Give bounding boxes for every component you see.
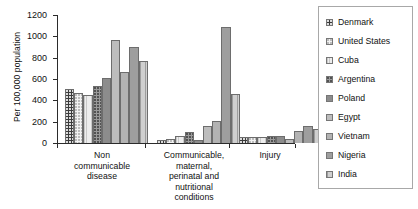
bar — [83, 95, 92, 143]
bar — [139, 61, 148, 143]
plot-area: 020040060080010001200 — [57, 15, 295, 144]
bar — [221, 27, 230, 143]
y-axis-tick-label: 0 — [42, 139, 47, 148]
category-label-line: disease — [57, 171, 147, 182]
bar — [276, 136, 285, 143]
bar — [120, 72, 129, 143]
bar — [185, 132, 194, 143]
x-axis-tick — [295, 144, 296, 148]
bar — [74, 93, 83, 143]
category-label-line: Injury — [242, 150, 298, 161]
bar — [157, 140, 166, 143]
legend-item-label: Cuba — [338, 56, 359, 65]
legend-item-label: Vietnam — [338, 132, 370, 141]
category-label-line: Communicable, — [148, 150, 240, 161]
legend-item-label: Poland — [338, 94, 365, 103]
bar-chart-figure: Per 100,000 population 02004006008001000… — [0, 0, 418, 209]
category-label-line: maternal, — [148, 161, 240, 172]
bar — [111, 40, 120, 143]
legend-item-label: United States — [338, 37, 390, 46]
bar — [166, 139, 175, 143]
category-label-line: Non — [57, 150, 147, 161]
x-axis-line — [57, 143, 295, 144]
category-label-line: communicable — [57, 161, 147, 172]
legend-box: DenmarkUnited StatesCubaArgentinaPolandE… — [318, 6, 413, 189]
legend-swatch-icon — [326, 95, 333, 102]
legend-swatch-icon — [326, 76, 333, 83]
bar — [65, 89, 74, 143]
legend-swatch-icon — [326, 171, 333, 178]
legend-item[interactable]: India — [326, 165, 412, 184]
legend-item[interactable]: Denmark — [326, 13, 412, 32]
bar — [129, 47, 138, 143]
y-axis-tick: 200 — [53, 122, 57, 123]
bar — [239, 137, 248, 143]
legend-swatch-icon — [326, 133, 333, 140]
legend-item-label: Nigeria — [338, 151, 366, 160]
legend-item-label: Denmark — [338, 18, 373, 27]
bar — [203, 126, 212, 143]
y-axis-tick: 800 — [53, 58, 57, 59]
y-axis-tick-label: 600 — [32, 75, 47, 84]
legend-item[interactable]: Poland — [326, 89, 412, 108]
y-axis-tick: 600 — [53, 79, 57, 80]
y-axis-title: Per 100,000 population — [12, 27, 26, 127]
bar-group — [239, 15, 322, 143]
bar — [285, 139, 294, 143]
y-axis-line — [57, 15, 58, 144]
legend-swatch-icon — [326, 114, 333, 121]
bar — [212, 121, 221, 143]
category-label-line: nutritional — [148, 182, 240, 193]
y-axis-tick: 1000 — [53, 36, 57, 37]
y-axis-tick-label: 200 — [32, 118, 47, 127]
bar — [248, 137, 257, 143]
bar-group — [157, 15, 240, 143]
y-axis-tick-label: 800 — [32, 54, 47, 63]
legend-item-label: India — [338, 170, 357, 179]
bar-group — [65, 15, 148, 143]
y-axis-tick-label: 1000 — [27, 32, 47, 41]
bar — [102, 78, 111, 143]
x-axis-category-label: Noncommunicabledisease — [57, 150, 147, 182]
y-axis-tick: 400 — [53, 100, 57, 101]
x-axis-category-label: Communicable,maternal,perinatal andnutri… — [148, 150, 240, 203]
bar — [303, 126, 312, 143]
bar — [294, 131, 303, 143]
bar — [267, 136, 276, 143]
bar — [93, 86, 102, 143]
legend-item[interactable]: Cuba — [326, 51, 412, 70]
legend-item[interactable]: Vietnam — [326, 127, 412, 146]
x-axis-category-label: Injury — [242, 150, 298, 161]
bar — [257, 137, 266, 143]
category-label-line: conditions — [148, 192, 240, 203]
y-axis-tick-label: 400 — [32, 96, 47, 105]
y-axis-tick: 1200 — [53, 15, 57, 16]
legend-item[interactable]: Egypt — [326, 108, 412, 127]
x-axis-tick — [145, 144, 146, 148]
legend-swatch-icon — [326, 57, 333, 64]
legend-item-label: Egypt — [338, 113, 360, 122]
y-axis-tick-label: 1200 — [27, 11, 47, 20]
x-axis-tick — [57, 144, 58, 148]
legend-swatch-icon — [326, 152, 333, 159]
legend-item-label: Argentina — [338, 75, 375, 84]
category-label-line: perinatal and — [148, 171, 240, 182]
legend-item[interactable]: Nigeria — [326, 146, 412, 165]
bar — [194, 140, 203, 143]
bar — [175, 136, 184, 143]
x-axis-tick — [229, 144, 230, 148]
legend-item[interactable]: Argentina — [326, 70, 412, 89]
legend-swatch-icon — [326, 38, 333, 45]
legend-item[interactable]: United States — [326, 32, 412, 51]
legend-swatch-icon — [326, 19, 333, 26]
